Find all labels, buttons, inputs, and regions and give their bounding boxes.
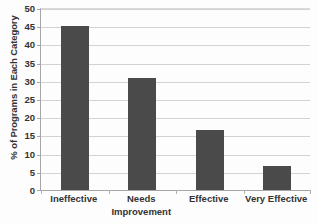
y-axis-tick-label: 35	[15, 57, 35, 68]
y-axis-tick-label: 0	[15, 185, 35, 196]
y-axis-tick-label: 50	[15, 3, 35, 14]
y-axis-tick-label: 20	[15, 112, 35, 123]
y-axis-tick-label: 15	[15, 130, 35, 141]
x-axis-category-label-line: Very Effective	[245, 193, 307, 204]
y-axis-tick-label: 25	[15, 94, 35, 105]
x-axis-category-label: Very Effective	[243, 193, 311, 206]
x-axis-category-label-line: Improvement	[108, 206, 176, 219]
x-axis-tick-mark	[310, 190, 311, 194]
x-axis-category-labels: IneffectiveNeedsImprovementEffectiveVery…	[40, 193, 310, 224]
bars-layer	[41, 9, 310, 190]
y-axis-tick-label: 45	[15, 21, 35, 32]
plot-area	[40, 8, 310, 190]
y-axis-tick-label: 10	[15, 148, 35, 159]
bar	[128, 78, 156, 190]
bar	[196, 130, 224, 190]
bar	[263, 166, 291, 190]
bar	[61, 26, 89, 190]
y-axis-tick-label: 40	[15, 39, 35, 50]
y-axis-tick-label: 30	[15, 75, 35, 86]
x-axis-category-label-line: Ineffective	[50, 193, 97, 204]
y-axis-tick-label: 5	[15, 166, 35, 177]
y-axis-tick-labels: 05101520253035404550	[15, 8, 35, 190]
x-axis-category-label-line: Needs	[127, 193, 156, 204]
x-axis-category-label-line: Effective	[189, 193, 229, 204]
bar-chart: % of Programs in Each Category 051015202…	[0, 0, 317, 224]
x-axis-category-label: Effective	[175, 193, 243, 206]
x-axis-category-label: NeedsImprovement	[108, 193, 176, 218]
x-axis-category-label: Ineffective	[40, 193, 108, 206]
